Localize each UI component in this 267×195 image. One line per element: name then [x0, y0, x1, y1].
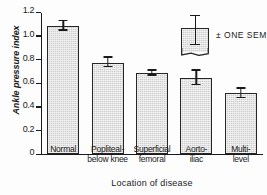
y-tick: 0.4 — [36, 106, 41, 107]
error-cap-top — [236, 87, 245, 88]
error-cap-bottom — [103, 66, 112, 67]
y-tick-label: 0 — [29, 147, 34, 157]
y-tick: 0.2 — [36, 130, 41, 131]
legend-label: ± ONE SEM — [216, 30, 267, 40]
legend: ± ONE SEM — [178, 14, 264, 58]
error-cap-top — [148, 69, 157, 70]
x-tick-label-line: iliac — [174, 155, 218, 165]
x-tick-label-line: level — [219, 155, 263, 165]
x-tick-label-line: Normal — [41, 145, 85, 155]
bar — [47, 26, 79, 154]
x-tick-label-line: femoral — [130, 155, 174, 165]
legend-error-cap-top-icon — [190, 15, 200, 16]
y-tick: 1.2 — [36, 12, 41, 13]
y-axis-line — [41, 13, 42, 155]
x-tick-label: Normal — [41, 145, 85, 155]
bar-group — [47, 26, 79, 154]
error-cap-top — [59, 20, 68, 21]
legend-error-bar-icon — [195, 15, 196, 45]
bar-group — [92, 63, 124, 154]
error-cap-bottom — [148, 74, 157, 75]
x-tick-label: Multi-level — [219, 145, 263, 164]
error-cap-bottom — [192, 84, 201, 85]
bar-group — [180, 78, 212, 154]
y-tick: 0.8 — [36, 59, 41, 60]
x-tick-label: Popliteal-below knee — [85, 145, 129, 164]
error-cap-top — [103, 56, 112, 57]
x-axis-title: Location of disease — [41, 178, 263, 188]
error-cap-bottom — [59, 29, 68, 30]
bar — [180, 78, 212, 154]
y-tick-label: 1.0 — [23, 29, 34, 39]
y-axis-title: Ankle pressure index — [11, 10, 21, 130]
y-tick-label: 0.4 — [23, 100, 34, 110]
x-tick-label-line: below knee — [85, 155, 129, 165]
legend-error-cap-bottom-icon — [190, 44, 200, 45]
bar-group — [136, 73, 168, 153]
legend-axis-break-icon — [181, 48, 209, 56]
bar — [136, 73, 168, 153]
y-tick-label: 0.6 — [23, 76, 34, 86]
x-tick-label: Aorto-iliac — [174, 145, 218, 164]
error-cap-bottom — [236, 97, 245, 98]
y-tick-label: 1.2 — [23, 5, 34, 15]
y-tick-label: 0.8 — [23, 53, 34, 63]
x-tick-label: Superficialfemoral — [130, 145, 174, 164]
y-tick: 1.0 — [36, 35, 41, 36]
y-tick-label: 0.2 — [23, 124, 34, 134]
error-cap-top — [192, 69, 201, 70]
bar-chart-figure: Ankle pressure index 00.20.40.60.81.01.2… — [0, 0, 267, 195]
bar — [92, 63, 124, 154]
y-tick: 0.6 — [36, 83, 41, 84]
